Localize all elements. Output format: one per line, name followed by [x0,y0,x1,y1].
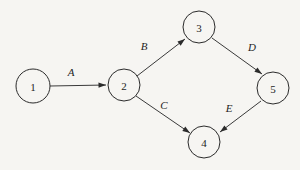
edge-C[interactable]: C [136,96,190,133]
edge-B-label: B [141,40,148,52]
edge-group: A B C D E [50,38,262,133]
edge-C-label: C [160,99,168,111]
edge-B[interactable]: B [137,39,185,76]
edge-A-label: A [67,66,75,78]
node-5[interactable]: 5 [257,72,289,104]
edge-E-label: E [225,102,233,114]
edge-A-line [50,85,106,86]
edge-A[interactable]: A [50,66,106,88]
node-2-label: 2 [121,80,127,92]
edge-D-arrowhead [254,68,262,74]
node-3[interactable]: 3 [183,11,215,43]
edge-B-arrowhead [177,39,185,46]
edge-D-label: D [247,41,256,53]
node-2[interactable]: 2 [108,69,140,101]
edge-D[interactable]: D [212,38,262,74]
node-group: 1 2 3 4 5 [16,11,289,158]
node-5-label: 5 [270,83,276,95]
node-1-label: 1 [30,81,36,93]
edge-C-arrowhead [182,127,190,133]
edge-E-arrowhead [220,125,228,132]
node-3-label: 3 [196,22,202,34]
node-4[interactable]: 4 [188,126,220,158]
edge-A-arrowhead [98,83,106,88]
node-4-label: 4 [201,137,207,149]
graph-svg: A B C D E [0,0,300,170]
edge-E[interactable]: E [220,101,261,132]
node-1[interactable]: 1 [16,69,50,103]
diagram-canvas: A B C D E [0,0,300,170]
